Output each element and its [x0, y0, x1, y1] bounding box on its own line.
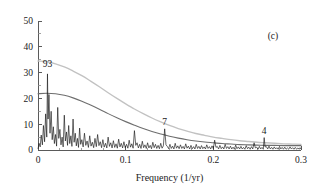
panel-label: (c) — [268, 31, 279, 42]
chart-annotations: 9374(c) — [43, 31, 279, 136]
y-tick-label-5: 50 — [24, 16, 34, 26]
y-tick-label-1: 10 — [24, 120, 34, 130]
x-tick-label-1: 0.1 — [120, 155, 132, 165]
x-axis-tick-labels: 00.10.20.3 — [36, 155, 308, 165]
y-axis-tick-labels: 01020304050 — [24, 16, 34, 155]
annotation-93: 93 — [43, 59, 53, 69]
y-tick-label-4: 40 — [24, 42, 34, 52]
lower-confidence-curve — [38, 93, 301, 145]
x-tick-label-0: 0 — [36, 155, 41, 165]
annotation-7: 7 — [162, 117, 167, 127]
plot-canvas: 01020304050 00.10.20.3 9374(c) Frequency… — [0, 0, 314, 187]
periodogram-figure: 01020304050 00.10.20.3 9374(c) Frequency… — [0, 0, 314, 187]
y-tick-label-2: 20 — [24, 94, 34, 104]
x-axis-title: Frequency (1/yr) — [136, 172, 203, 184]
spectrum-trace — [38, 74, 301, 149]
y-tick-label-3: 30 — [24, 68, 34, 78]
y-tick-label-0: 0 — [28, 145, 33, 155]
x-tick-label-3: 0.3 — [295, 155, 307, 165]
annotation-4: 4 — [262, 126, 267, 136]
x-tick-label-2: 0.2 — [207, 155, 219, 165]
